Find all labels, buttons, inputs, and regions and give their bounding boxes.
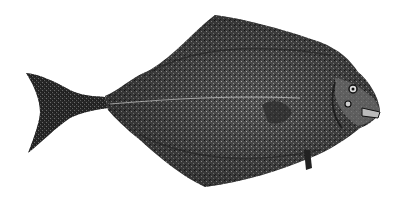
eye xyxy=(345,101,351,107)
illustration-canvas xyxy=(0,0,401,202)
halibut-illustration xyxy=(0,0,401,202)
